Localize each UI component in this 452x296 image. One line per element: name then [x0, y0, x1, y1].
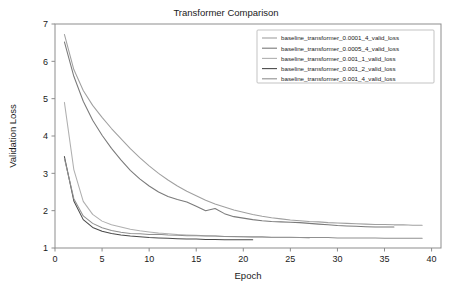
y-tick-label: 2 [43, 206, 48, 216]
x-axis-ticks: 0510152025303540 [52, 248, 436, 264]
legend-label-1: baseline_transformer_0.0005_4_valid_loss [281, 45, 399, 52]
x-axis-label: Epoch [235, 270, 262, 281]
x-tick-label: 5 [100, 254, 105, 264]
chart-title: Transformer Comparison [173, 7, 278, 18]
chart-canvas: Transformer Comparison 0510152025303540 … [0, 0, 452, 296]
y-axis-ticks: 1234567 [43, 19, 55, 253]
series-line-3 [64, 157, 252, 240]
y-tick-label: 7 [43, 19, 48, 29]
x-tick-label: 40 [427, 254, 437, 264]
x-tick-label: 0 [52, 254, 57, 264]
legend-label-2: baseline_transformer_0.001_1_valid_loss [281, 55, 396, 62]
y-tick-label: 1 [43, 243, 48, 253]
legend-label-3: baseline_transformer_0.001_2_valid_loss [281, 65, 396, 72]
x-tick-label: 15 [191, 254, 201, 264]
y-tick-label: 3 [43, 169, 48, 179]
x-tick-label: 20 [238, 254, 248, 264]
legend-label-0: baseline_transformer_0.0001_4_valid_loss [281, 34, 399, 41]
x-tick-label: 30 [332, 254, 342, 264]
x-tick-label: 10 [144, 254, 154, 264]
chart-figure: Transformer Comparison 0510152025303540 … [0, 0, 452, 296]
x-tick-label: 35 [380, 254, 390, 264]
legend-label-4: baseline_transformer_0.001_4_valid_loss [281, 75, 396, 82]
x-tick-label: 25 [285, 254, 295, 264]
y-tick-label: 4 [43, 131, 48, 141]
chart-legend[interactable]: baseline_transformer_0.0001_4_valid_loss… [257, 30, 434, 83]
y-tick-label: 6 [43, 57, 48, 67]
y-axis-label: Validation Loss [7, 104, 18, 168]
y-tick-label: 5 [43, 94, 48, 104]
